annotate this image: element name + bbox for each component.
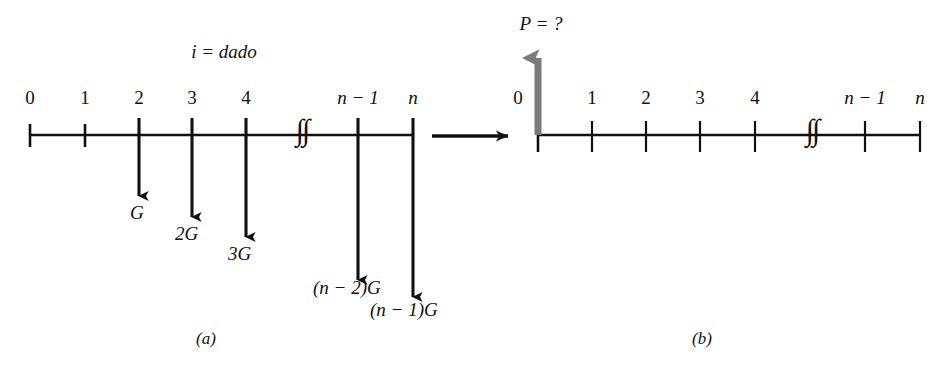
panel-a-interest-note: i = dado	[191, 42, 257, 61]
panel-a-flow-label-3G: 3G	[228, 244, 251, 263]
panel-b-present-worth-label: P = ?	[519, 14, 562, 33]
panel-b-tick-label-2: 2	[641, 88, 651, 107]
panel-a-group	[30, 118, 413, 297]
panel-a-flow-label-2G: 2G	[175, 224, 198, 243]
panel-a-flow-label-n-2-G: (n − 2)G	[313, 278, 381, 297]
figure-canvas	[0, 0, 935, 367]
panel-b-axis-break-icon: ∫∫	[806, 115, 818, 145]
panel-b-tick-label-n: n	[915, 88, 925, 107]
cash-flow-figure: i = dado 0 1 2 3 4 n − 1 n ∫∫ G 2G 3G (n…	[0, 0, 935, 367]
panel-a-tick-label-2: 2	[134, 88, 144, 107]
panel-a-axis-break-icon: ∫∫	[296, 115, 308, 145]
panel-a-tick-label-n: n	[408, 88, 418, 107]
panel-b-tick-label-0: 0	[513, 88, 523, 107]
panel-b-tick-label-4: 4	[750, 88, 760, 107]
panel-b-tick-label-1: 1	[587, 88, 597, 107]
panel-a-tick-label-0: 0	[25, 88, 35, 107]
panel-a-caption: (a)	[196, 330, 216, 347]
panel-a-tick-label-3: 3	[187, 88, 197, 107]
panel-a-flow-label-n-1-G: (n − 1)G	[370, 300, 438, 319]
panel-a-tick-label-1: 1	[80, 88, 90, 107]
panel-a-flow-label-G: G	[130, 203, 144, 222]
panel-b-tick-label-n-minus-1: n − 1	[844, 88, 885, 107]
panel-b-tick-label-3: 3	[695, 88, 705, 107]
panel-b-caption: (b)	[692, 330, 712, 347]
panel-a-tick-label-4: 4	[241, 88, 251, 107]
panel-a-tick-label-n-minus-1: n − 1	[337, 88, 378, 107]
